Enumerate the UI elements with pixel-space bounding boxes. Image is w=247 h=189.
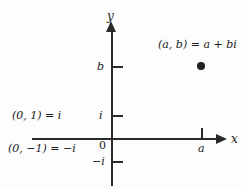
tick-label-a: a bbox=[198, 143, 205, 154]
x-axis-label: x bbox=[231, 133, 238, 145]
negative-imaginary-unit-annotation: (0, −1) = −i bbox=[8, 143, 76, 154]
tick-label-i: i bbox=[99, 110, 103, 121]
tick-label-neg-i: −i bbox=[92, 156, 105, 167]
tick-mark-i bbox=[112, 115, 123, 117]
imaginary-unit-annotation: (0, 1) = i bbox=[12, 110, 61, 121]
tick-mark-a bbox=[201, 128, 203, 139]
y-axis-label: y bbox=[107, 10, 114, 22]
tick-mark-b bbox=[112, 66, 123, 68]
plotted-point-ab bbox=[197, 62, 205, 70]
complex-plane-figure: b i −i 0 a y x (a, b) = a + bi (0, 1) = … bbox=[0, 0, 247, 189]
x-axis-line bbox=[32, 138, 223, 140]
tick-label-b: b bbox=[97, 61, 104, 72]
origin-label: 0 bbox=[99, 140, 106, 151]
tick-mark-neg-i bbox=[112, 161, 123, 163]
point-annotation-label: (a, b) = a + bi bbox=[158, 39, 237, 50]
x-axis-arrow-icon bbox=[216, 134, 227, 144]
